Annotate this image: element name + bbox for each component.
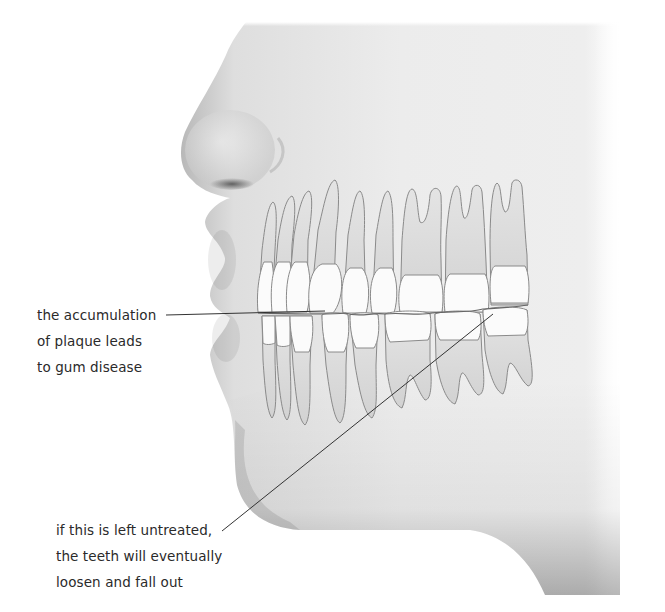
annotation-untreated-line-3: loosen and fall out [56,569,222,595]
dental-illustration: the accumulation of plaque leads to gum … [0,0,665,612]
annotation-untreated: if this is left untreated, the teeth wil… [56,517,222,595]
annotation-plaque-line-1: the accumulation [37,302,156,328]
annotation-untreated-line-1: if this is left untreated, [56,517,222,543]
annotation-untreated-line-2: the teeth will eventually [56,543,222,569]
annotation-plaque-line-2: of plaque leads [37,328,156,354]
annotation-plaque-line-3: to gum disease [37,354,156,380]
annotation-plaque: the accumulation of plaque leads to gum … [37,302,156,380]
